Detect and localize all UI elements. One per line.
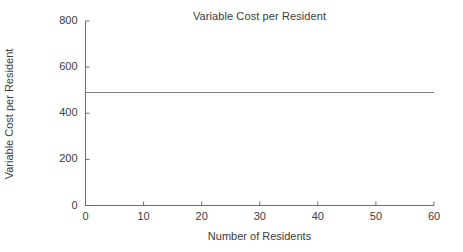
y-tick-label: 400 (44, 106, 78, 118)
x-axis-ticks (86, 202, 435, 206)
x-tick-label: 20 (185, 210, 219, 222)
y-tick-label: 200 (44, 152, 78, 164)
chart-container: Variable Cost per Resident Variable Cost… (0, 0, 463, 252)
y-tick-label: 600 (44, 60, 78, 72)
y-axis-ticks (86, 21, 90, 206)
x-tick-label: 10 (127, 210, 161, 222)
x-tick-label: 50 (359, 210, 393, 222)
y-tick-label: 800 (44, 14, 78, 26)
x-tick-label: 40 (301, 210, 335, 222)
x-tick-label: 30 (243, 210, 277, 222)
x-tick-label: 0 (69, 210, 103, 222)
x-tick-label: 60 (417, 210, 451, 222)
